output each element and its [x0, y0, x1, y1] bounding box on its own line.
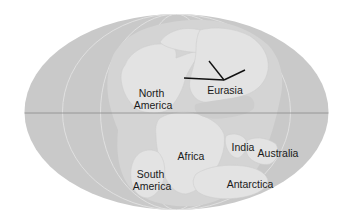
- label-india: India: [232, 141, 255, 153]
- label-north-america: North America: [134, 87, 173, 111]
- label-south-america: South America: [133, 168, 172, 192]
- label-antarctica: Antarctica: [227, 178, 274, 190]
- label-eurasia: Eurasia: [207, 84, 243, 96]
- world-map: North America Eurasia Africa South Ameri…: [0, 0, 353, 217]
- label-australia: Australia: [258, 147, 299, 159]
- label-africa: Africa: [178, 150, 205, 162]
